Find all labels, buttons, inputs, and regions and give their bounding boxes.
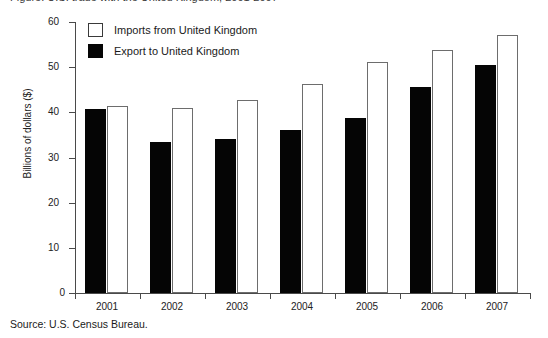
legend-entry-imports: Imports from United Kingdom	[88, 20, 257, 39]
y-axis-title: Billions of dollars ($)	[22, 44, 33, 224]
bar-imports-2006	[432, 50, 453, 293]
x-tick-mark-1	[140, 294, 141, 299]
legend-label-export: Export to United Kingdom	[114, 45, 239, 57]
y-tick-mark-40	[69, 112, 75, 113]
bar-export-2003	[215, 139, 236, 293]
bar-imports-2002	[172, 108, 193, 293]
x-tick-mark-2	[205, 294, 206, 299]
bar-export-2001	[85, 109, 106, 293]
x-tick-label-2004: 2004	[274, 302, 330, 312]
x-tick-label-2002: 2002	[144, 302, 200, 312]
bar-imports-2004	[302, 84, 323, 293]
legend-swatch-export-icon	[88, 44, 103, 58]
bar-imports-2007	[497, 35, 518, 293]
legend-swatch-imports-icon	[88, 23, 103, 37]
x-tick-label-2007: 2007	[469, 302, 525, 312]
y-tick-mark-50	[69, 67, 75, 68]
bar-imports-2001	[107, 106, 128, 293]
x-tick-label-2005: 2005	[339, 302, 395, 312]
y-tick-mark-60	[69, 22, 75, 23]
legend-label-imports: Imports from United Kingdom	[114, 24, 257, 36]
chart-figure: Figure: U.S. trade with the United Kingd…	[0, 0, 548, 338]
cut-off-title: Figure: U.S. trade with the United Kingd…	[0, 0, 548, 7]
bar-export-2007	[475, 65, 496, 293]
bar-imports-2005	[367, 62, 388, 293]
cut-off-title-text: Figure: U.S. trade with the United Kingd…	[10, 0, 278, 3]
y-axis-line	[75, 22, 76, 294]
x-axis-line	[75, 293, 531, 294]
chart-legend: Imports from United Kingdom Export to Un…	[88, 20, 257, 62]
y-tick-mark-30	[69, 158, 75, 159]
legend-entry-export: Export to United Kingdom	[88, 41, 257, 60]
x-tick-mark-5	[400, 294, 401, 299]
bar-export-2002	[150, 142, 171, 293]
x-tick-mark-6	[465, 294, 466, 299]
source-note: Source: U.S. Census Bureau.	[10, 318, 148, 330]
x-tick-mark-7	[530, 294, 531, 299]
x-tick-label-2001: 2001	[79, 302, 135, 312]
x-tick-label-2006: 2006	[404, 302, 460, 312]
bar-imports-2003	[237, 100, 258, 293]
y-tick-label-0: 0	[25, 288, 65, 298]
x-tick-mark-4	[335, 294, 336, 299]
x-tick-label-2003: 2003	[209, 302, 265, 312]
bar-export-2005	[345, 118, 366, 293]
x-tick-mark-0	[75, 294, 76, 299]
bar-export-2004	[280, 130, 301, 293]
y-tick-label-60: 60	[19, 17, 59, 27]
x-tick-mark-3	[270, 294, 271, 299]
bar-export-2006	[410, 87, 431, 293]
y-tick-label-10: 10	[19, 243, 59, 253]
y-tick-mark-10	[69, 248, 75, 249]
y-tick-mark-20	[69, 203, 75, 204]
